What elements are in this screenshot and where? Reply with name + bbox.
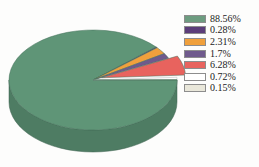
legend-swatch <box>184 73 206 81</box>
legend-label: 1.7% <box>210 49 231 59</box>
legend-label: 6.28% <box>210 60 236 70</box>
legend-item[interactable]: 0.15% <box>184 83 259 95</box>
pie-chart-svg <box>0 0 186 167</box>
legend-swatch <box>184 84 206 92</box>
legend-item[interactable]: 0.72% <box>184 71 259 83</box>
legend-label: 0.28% <box>210 25 236 35</box>
legend-label: 0.72% <box>210 72 236 82</box>
legend-item[interactable]: 2.31% <box>184 36 259 48</box>
legend-item[interactable]: 6.28% <box>184 59 259 71</box>
legend-swatch <box>184 61 206 69</box>
legend-item[interactable]: 0.28% <box>184 25 259 37</box>
legend-swatch <box>184 50 206 58</box>
legend-swatch <box>184 38 206 46</box>
legend-item[interactable]: 1.7% <box>184 48 259 60</box>
legend-label: 0.15% <box>210 83 236 93</box>
legend-label: 88.56% <box>210 14 241 24</box>
pie-chart-plot <box>0 0 186 167</box>
legend-swatch <box>184 26 206 34</box>
legend-label: 2.31% <box>210 37 236 47</box>
legend-swatch <box>184 15 206 23</box>
legend-item[interactable]: 88.56% <box>184 13 259 25</box>
pie-chart-screenshot: 88.56%0.28%2.31%1.7%6.28%0.72%0.15% <box>0 0 259 167</box>
chart-legend: 88.56%0.28%2.31%1.7%6.28%0.72%0.15% <box>184 13 259 94</box>
